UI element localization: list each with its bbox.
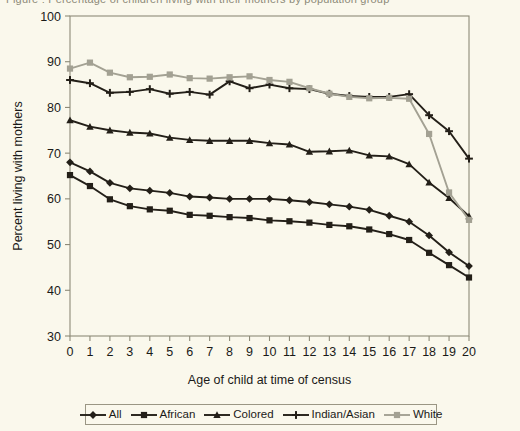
data-point-marker bbox=[286, 218, 292, 224]
data-point-marker bbox=[266, 77, 272, 83]
legend-entry-all[interactable]: All bbox=[80, 409, 122, 421]
data-point-marker bbox=[106, 89, 114, 97]
legend-entry-white[interactable]: White bbox=[384, 409, 442, 421]
x-tick-label: 8 bbox=[226, 345, 233, 359]
chart-legend: AllAfricanColoredIndian/AsianWhite bbox=[85, 404, 437, 425]
data-point-marker bbox=[386, 95, 392, 101]
legend-label: All bbox=[108, 409, 122, 421]
data-point-marker bbox=[246, 84, 254, 92]
x-tick-label: 10 bbox=[263, 345, 277, 359]
axis-frame bbox=[70, 16, 469, 336]
data-point-marker bbox=[167, 208, 173, 214]
data-point-marker bbox=[66, 76, 74, 84]
data-point-marker bbox=[227, 74, 233, 80]
triangle-marker-icon bbox=[204, 409, 230, 421]
x-tick-label: 18 bbox=[422, 345, 436, 359]
data-point-marker bbox=[107, 196, 113, 202]
data-point-marker bbox=[166, 189, 174, 197]
data-point-marker bbox=[187, 212, 193, 218]
y-tick-label: 70 bbox=[47, 147, 61, 161]
x-tick-label: 12 bbox=[302, 345, 316, 359]
x-tick-label: 17 bbox=[402, 345, 416, 359]
legend-entry-indian-asian[interactable]: Indian/Asian bbox=[283, 409, 375, 421]
data-point-marker bbox=[366, 226, 372, 232]
diamond-marker-icon bbox=[80, 409, 106, 421]
x-tick-label: 20 bbox=[462, 345, 476, 359]
data-point-marker bbox=[365, 206, 373, 214]
data-point-marker bbox=[326, 222, 332, 228]
x-tick-label: 13 bbox=[322, 345, 336, 359]
x-tick-label: 5 bbox=[166, 345, 173, 359]
data-point-marker bbox=[127, 203, 133, 209]
data-point-marker bbox=[446, 262, 452, 268]
data-point-marker bbox=[306, 198, 314, 206]
data-point-marker bbox=[246, 215, 252, 221]
x-axis-title: Age of child at time of census bbox=[188, 373, 351, 387]
data-point-marker bbox=[286, 84, 294, 92]
legend-entry-african[interactable]: African bbox=[131, 409, 196, 421]
square-marker-icon bbox=[384, 409, 410, 421]
legend-entry-colored[interactable]: Colored bbox=[204, 409, 273, 421]
y-tick-label: 100 bbox=[40, 10, 61, 24]
data-point-marker bbox=[406, 237, 412, 243]
y-axis-title: Percent living with mothers bbox=[11, 101, 25, 250]
y-tick-label: 30 bbox=[47, 330, 61, 344]
x-tick-label: 15 bbox=[362, 345, 376, 359]
data-point-marker bbox=[246, 73, 252, 79]
data-point-marker bbox=[426, 131, 432, 137]
y-tick-label: 40 bbox=[47, 284, 61, 298]
data-point-marker bbox=[66, 117, 73, 124]
data-point-marker bbox=[306, 220, 312, 226]
chart-figure: Figure : Percentage of children living w… bbox=[0, 0, 520, 431]
data-point-marker bbox=[87, 60, 93, 66]
data-point-marker bbox=[86, 168, 94, 176]
x-tick-label: 2 bbox=[106, 345, 113, 359]
data-point-marker bbox=[345, 203, 353, 211]
data-point-marker bbox=[66, 158, 74, 166]
x-tick-label: 4 bbox=[146, 345, 153, 359]
data-point-marker bbox=[86, 79, 94, 87]
data-series-layer bbox=[66, 60, 473, 281]
data-point-marker bbox=[226, 195, 234, 203]
data-point-marker bbox=[326, 91, 332, 97]
series-indian-asian bbox=[66, 76, 473, 162]
data-point-marker bbox=[106, 179, 114, 187]
legend-label: White bbox=[412, 409, 442, 421]
data-point-marker bbox=[67, 65, 73, 71]
data-point-marker bbox=[107, 70, 113, 76]
data-point-marker bbox=[206, 194, 214, 202]
data-point-marker bbox=[167, 71, 173, 77]
data-point-marker bbox=[406, 96, 412, 102]
cross-marker-icon bbox=[283, 409, 309, 421]
data-point-marker bbox=[207, 76, 213, 82]
data-point-marker bbox=[466, 217, 472, 223]
data-point-marker bbox=[146, 85, 154, 93]
data-point-marker bbox=[67, 172, 73, 178]
data-point-marker bbox=[227, 214, 233, 220]
data-point-marker bbox=[207, 213, 213, 219]
data-point-marker bbox=[266, 217, 272, 223]
x-tick-label: 3 bbox=[126, 345, 133, 359]
data-point-marker bbox=[126, 88, 134, 96]
x-tick-label: 14 bbox=[342, 345, 356, 359]
line-chart-plot: 30405060708090100 0123456789101112131415… bbox=[0, 0, 520, 400]
data-point-marker bbox=[386, 231, 392, 237]
y-tick-label: 60 bbox=[47, 192, 61, 206]
data-point-marker bbox=[146, 187, 154, 195]
legend-label: Colored bbox=[232, 409, 273, 421]
x-tick-label: 7 bbox=[206, 345, 213, 359]
data-point-marker bbox=[306, 85, 312, 91]
y-axis-ticks: 30405060708090100 bbox=[40, 10, 70, 344]
data-point-marker bbox=[325, 200, 333, 208]
y-tick-label: 90 bbox=[47, 55, 61, 69]
x-tick-label: 6 bbox=[186, 345, 193, 359]
data-point-marker bbox=[126, 184, 134, 192]
data-point-marker bbox=[186, 88, 194, 96]
series-all bbox=[66, 158, 473, 270]
legend-label: Indian/Asian bbox=[311, 409, 375, 421]
x-tick-label: 0 bbox=[67, 345, 74, 359]
legend-label: African bbox=[159, 409, 196, 421]
x-tick-label: 9 bbox=[246, 345, 253, 359]
cropped-caption-fragment: Figure : Percentage of children living w… bbox=[0, 0, 520, 6]
data-point-marker bbox=[366, 95, 372, 101]
